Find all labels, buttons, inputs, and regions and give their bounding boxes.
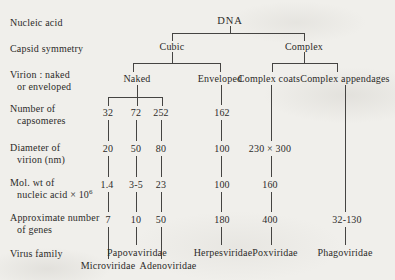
value-genes-50: 50 [156,215,166,225]
family-herpesviridae: Herpesviridae [194,248,253,258]
node-complex-coats: Complex coats [238,74,300,84]
row-label-diameter: Diameter of virion (nm) [10,142,65,166]
row-label-capsomeres-line2: capsomeres [10,115,66,127]
row-label-diameter-line1: Diameter of [10,142,60,153]
node-complex-appendages: Complex appendages [300,74,389,84]
node-naked: Naked [123,74,150,84]
value-genes-400: 400 [262,215,278,225]
value-diameter-80: 80 [156,144,166,154]
value-diameter-230x300: 230 × 300 [249,144,291,154]
row-label-virion-line2: or enveloped [10,81,71,93]
value-capsomeres-72: 72 [131,108,141,118]
tree-connector-lines [0,0,395,280]
row-label-mol-wt-exponent: 6 [89,188,93,196]
value-capsomeres-252: 252 [153,108,169,118]
value-genes-32-130: 32-130 [332,215,362,225]
value-diameter-20: 20 [103,144,113,154]
row-label-mol-wt-line1: Mol. wt of [10,177,55,188]
family-poxviridae: Poxviridae [252,248,297,258]
node-cubic: Cubic [160,42,185,52]
value-capsomeres-162: 162 [214,108,230,118]
row-label-capsid-symmetry: Capsid symmetry [10,43,83,55]
row-label-mol-wt-base: nucleic acid × 10 [17,189,89,200]
value-molwt-160: 160 [262,180,278,190]
row-label-diameter-line2: virion (nm) [10,154,65,166]
family-adenoviridae: Adenoviridae [140,261,197,271]
row-label-virion-line1: Virion : naked [10,69,70,80]
row-label-capsomeres-line1: Number of [10,103,55,114]
row-label-mol-wt: Mol. wt of nucleic acid × 106 [10,177,93,201]
node-enveloped: Enveloped [198,74,243,84]
row-label-capsomeres: Number of capsomeres [10,103,66,127]
row-label-nucleic-acid: Nucleic acid [10,17,63,29]
row-label-genes-line1: Approximate number [10,212,99,223]
row-label-virion: Virion : naked or enveloped [10,69,71,93]
row-label-genes-line2: of genes [10,224,99,236]
value-molwt-23: 23 [156,180,166,190]
value-genes-7: 7 [105,215,110,225]
value-diameter-50: 50 [131,144,141,154]
row-label-mol-wt-line2: nucleic acid × 106 [10,189,93,201]
family-microviridae: Microviridae [81,261,136,271]
row-label-virus-family: Virus family [10,248,63,260]
family-phagoviridae: Phagoviridae [317,248,372,258]
node-dna: DNA [217,16,243,26]
value-capsomeres-32: 32 [103,108,113,118]
node-complex: Complex [285,42,323,52]
value-genes-10: 10 [131,215,141,225]
value-genes-180: 180 [214,215,230,225]
family-papovaviridae: Papovaviridae [107,248,167,258]
value-molwt-100: 100 [214,180,230,190]
dna-virus-classification-diagram: Nucleic acid Capsid symmetry Virion : na… [0,0,395,280]
row-label-genes: Approximate number of genes [10,212,99,236]
value-molwt-1-4: 1.4 [100,180,113,190]
value-molwt-3-5: 3-5 [129,180,143,190]
value-diameter-100: 100 [214,144,230,154]
